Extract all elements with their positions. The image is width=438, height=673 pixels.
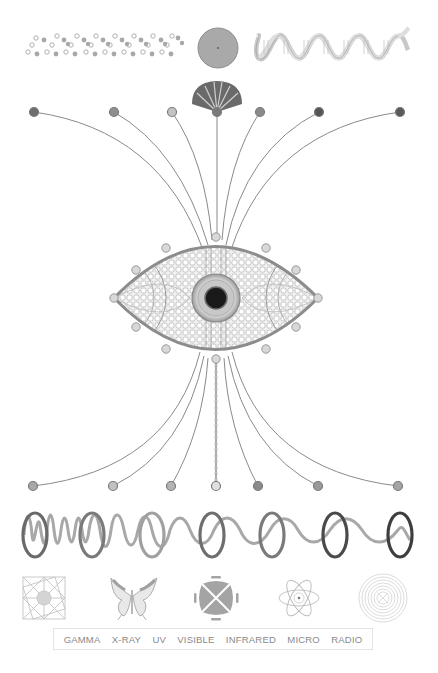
node [168,108,177,117]
node [254,482,263,491]
node [394,482,403,491]
top-node-row [30,108,405,117]
label-micro: MICRO [287,634,320,645]
illustration-canvas [0,0,438,673]
label-infrared: INFRARED [226,634,276,645]
sacred-geometry-icon [23,577,65,619]
pupil [205,287,227,309]
upper-connector-lines [34,112,400,250]
bottom-node-row [29,482,403,491]
node [212,482,221,491]
molecule-chain-icon [26,34,184,57]
node [30,108,39,117]
concentric-rings-icon [359,574,407,622]
label-uv: UV [152,634,166,645]
node [314,482,323,491]
wavelength-wave-icon [23,513,412,557]
spectrum-label-bar: GAMMA X-RAY UV VISIBLE INFRARED MICRO RA… [53,628,373,650]
node [396,108,405,117]
node [110,108,119,117]
uv-pattern-icon [194,576,239,621]
eye-mandala-icon [62,233,370,363]
chain-icon [215,363,217,482]
label-radio: RADIO [331,634,362,645]
iris [192,274,240,322]
node [213,108,222,117]
label-x-ray: X-RAY [112,634,141,645]
butterfly-icon [111,578,157,620]
node [109,482,118,491]
node [167,482,176,491]
node [29,482,38,491]
label-visible: VISIBLE [177,634,214,645]
node [315,108,324,117]
disc-icon [198,28,238,68]
dna-helix-icon [256,28,409,59]
node [256,108,265,117]
label-gamma: GAMMA [64,634,101,645]
atom-icon [279,577,319,620]
